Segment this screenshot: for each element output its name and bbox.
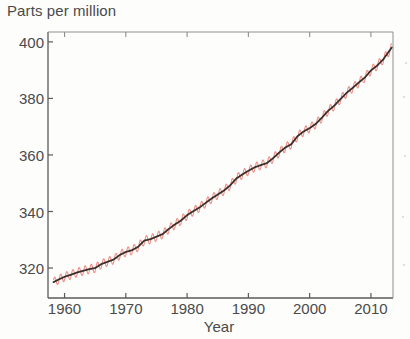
plot-area [0, 0, 410, 339]
axis-ticks [48, 32, 371, 298]
scan-speck [405, 62, 407, 64]
trend-line [54, 48, 392, 283]
scan-speck [404, 155, 406, 157]
axis-frame [48, 32, 393, 298]
scan-speck [403, 96, 405, 98]
scan-speck [402, 216, 404, 218]
chart-figure: Parts per million 320340360380400 196019… [0, 0, 410, 339]
seasonal-cycle-line [54, 43, 392, 284]
scan-speck [403, 264, 405, 266]
